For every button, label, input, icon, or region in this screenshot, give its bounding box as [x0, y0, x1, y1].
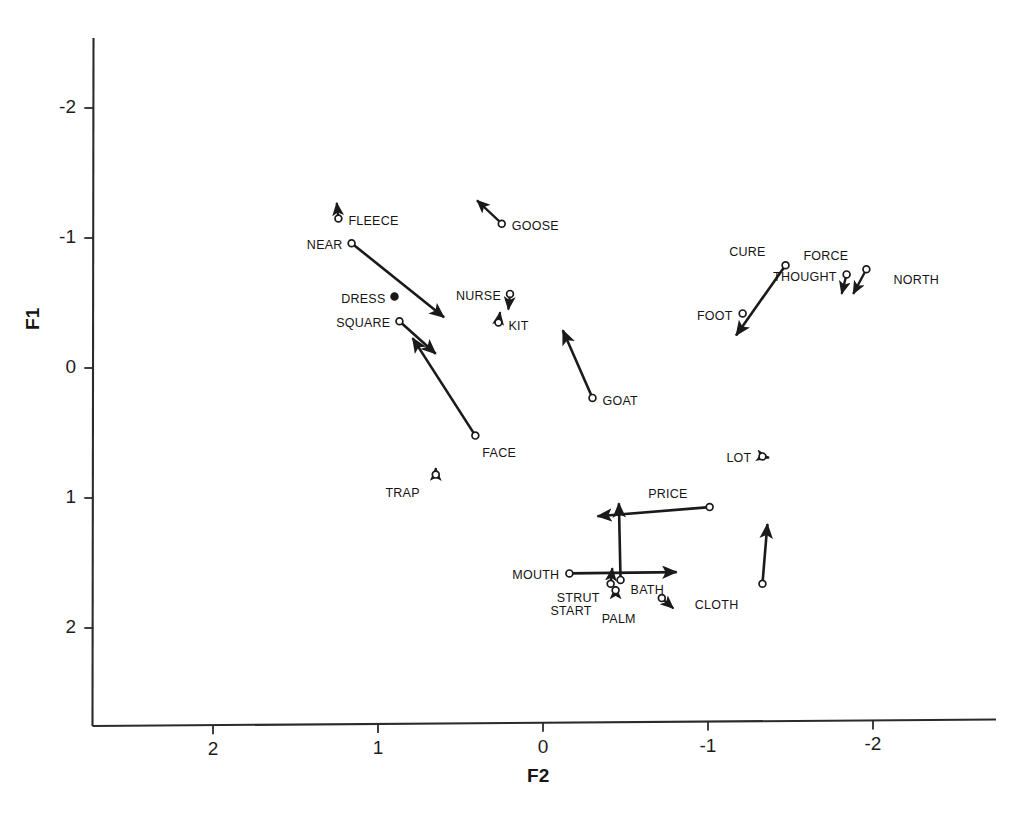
- data-point-label: NURSE: [0, 289, 501, 303]
- data-point-marker: [863, 266, 870, 273]
- shift-vector-arrow: [477, 200, 502, 223]
- data-point-marker: [607, 580, 614, 587]
- x-axis-title: F2: [527, 765, 550, 787]
- data-point-label: LOT: [0, 451, 751, 465]
- data-point-label: CLOTH: [0, 598, 738, 612]
- x-tick-label: 1: [348, 737, 408, 759]
- data-point-marker: [739, 310, 746, 317]
- x-tick-label: 2: [183, 738, 243, 760]
- data-point-marker: [759, 580, 766, 587]
- data-point-marker: [335, 215, 342, 222]
- data-point-label: FORCE: [0, 249, 848, 263]
- data-point-marker: [432, 471, 439, 478]
- x-axis-line: [93, 720, 997, 727]
- x-tick-label: 0: [513, 736, 573, 758]
- data-point-label: PALM: [0, 612, 636, 626]
- shift-vector-arrow: [569, 572, 676, 573]
- data-point-marker: [706, 504, 713, 511]
- data-point-marker: [589, 395, 596, 402]
- data-point-marker: [498, 220, 505, 227]
- data-point-label: GOAT: [603, 394, 639, 408]
- data-point-label: MOUTH: [0, 568, 559, 582]
- data-point-label: NORTH: [894, 273, 939, 287]
- data-point-label: PRICE: [0, 487, 688, 501]
- shift-vector-arrow: [399, 321, 435, 354]
- x-tick-label: -1: [678, 735, 738, 757]
- shift-vector-arrow: [619, 503, 621, 580]
- data-point-label: THOUGHT: [0, 270, 837, 284]
- vowel-formant-chart: F1 F2 210-1-2-2-1012 FLEECEGOOSENEARDRES…: [0, 0, 1012, 814]
- data-point-label: FLEECE: [348, 214, 398, 228]
- shift-vector-arrow: [563, 330, 593, 398]
- data-point-marker: [566, 570, 573, 577]
- chart-canvas: [0, 0, 1012, 814]
- data-point-label: BATH: [631, 583, 664, 597]
- shift-vector-arrow: [597, 507, 709, 516]
- x-tick-label: -2: [843, 733, 903, 755]
- data-point-marker: [843, 271, 850, 278]
- data-point-marker: [612, 587, 619, 594]
- shift-vector-arrow: [413, 338, 476, 436]
- y-tick-label: -2: [24, 96, 76, 118]
- data-point-marker: [759, 453, 766, 460]
- data-point-label: GOOSE: [512, 219, 559, 233]
- y-tick-label: 0: [24, 356, 76, 378]
- shift-vector-arrow: [762, 524, 767, 584]
- data-point-marker: [507, 291, 514, 298]
- data-point-marker: [472, 432, 479, 439]
- data-point-marker: [617, 577, 624, 584]
- data-point-label: FOOT: [0, 309, 733, 323]
